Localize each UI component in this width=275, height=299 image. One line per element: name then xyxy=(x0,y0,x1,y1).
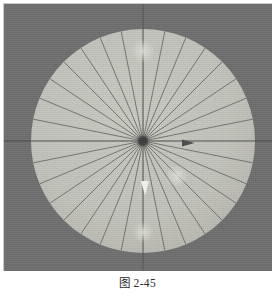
radial-fan-diagram xyxy=(4,4,272,271)
figure-image-plate xyxy=(3,3,272,271)
center-hub-core xyxy=(139,137,146,144)
figure-page: 图 2-45 xyxy=(0,0,275,299)
highlight-spot-lower-right xyxy=(166,165,188,187)
figure-caption: 图 2-45 xyxy=(0,274,275,290)
highlight-spot-bottom xyxy=(132,221,154,243)
highlight-spot-upper xyxy=(131,39,155,63)
